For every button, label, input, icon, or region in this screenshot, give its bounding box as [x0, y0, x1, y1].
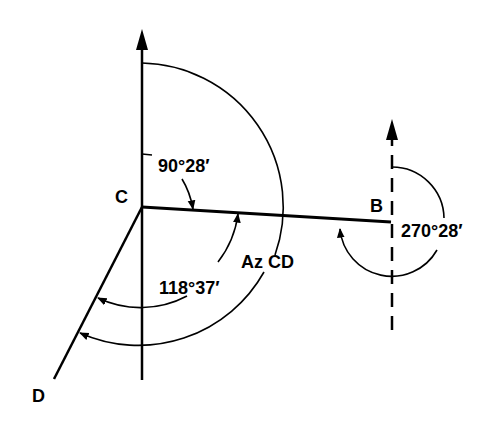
north-line-c [136, 29, 148, 380]
azimuth-diagram: C B D 90°28′ 118°37′ Az CD 270°28′ [0, 0, 496, 426]
label-az-cd: Az CD [241, 252, 294, 272]
north-arrow-c-icon [136, 29, 148, 50]
label-point-d: D [32, 386, 45, 406]
label-angle-270-28: 270°28′ [401, 221, 463, 241]
leader-90-28 [142, 154, 152, 155]
label-angle-118-37: 118°37′ [159, 278, 220, 298]
arc-270-28-upper [392, 167, 444, 218]
north-arrow-b-icon [386, 119, 398, 140]
arc-118-37-upper [218, 214, 238, 262]
label-point-b: B [370, 196, 383, 216]
line-cd [54, 207, 142, 379]
arrow-90-28 [182, 179, 193, 209]
north-line-b [386, 119, 398, 330]
label-angle-90-28: 90°28′ [158, 156, 210, 176]
line-cb [142, 207, 391, 222]
label-point-c: C [115, 187, 128, 207]
